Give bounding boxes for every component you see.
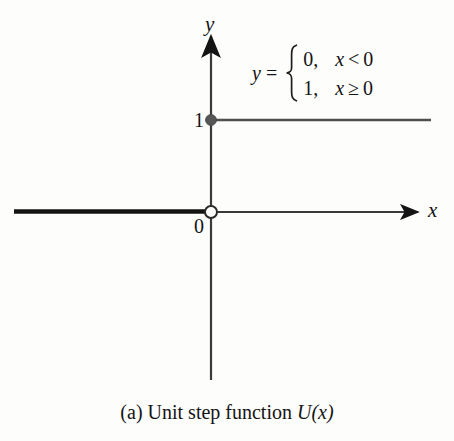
equation-case-row-1: 0, x<0 [303,44,373,73]
left-curly-brace-icon [284,44,298,102]
plot-canvas [0,0,454,441]
figure-caption: (a) Unit step function U(x) [0,400,454,424]
case-1-condition: x<0 [335,49,373,69]
case-2-variable: x [335,77,344,99]
case-1-variable: x [335,48,344,70]
case-2-relation: ≥ [348,77,359,99]
case-1-value: 0, [303,49,323,69]
origin-label-zero: 0 [194,216,204,236]
case-1-relation: < [348,48,359,70]
caption-function-name: U(x) [297,401,334,423]
open-endpoint-marker [205,206,217,218]
equation-lhs: y [252,63,261,83]
equation-case-row-2: 1, x≥0 [303,73,373,102]
caption-prefix: (a) Unit step function [120,401,297,423]
case-1-number: 0 [363,48,373,70]
piecewise-equation: y = 0, x<0 1, x≥0 [252,44,373,102]
closed-endpoint-marker [206,115,217,126]
unit-step-function-figure: y x 1 0 y = 0, x<0 1, x≥0 (a) Unit step … [0,0,454,441]
case-2-condition: x≥0 [335,78,373,98]
y-axis-label: y [205,14,214,35]
case-2-number: 0 [363,77,373,99]
x-axis-label: x [428,200,437,221]
case-2-value: 1, [303,78,323,98]
equation-cases: 0, x<0 1, x≥0 [303,44,373,102]
y-tick-label-one: 1 [194,110,204,130]
equation-equals-sign: = [266,63,277,83]
